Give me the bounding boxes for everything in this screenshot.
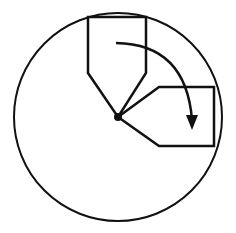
pivot-point (114, 113, 122, 121)
clockwise-arrow-icon (116, 43, 192, 120)
rotation-diagram (0, 0, 236, 233)
arrowhead-icon (186, 115, 198, 130)
